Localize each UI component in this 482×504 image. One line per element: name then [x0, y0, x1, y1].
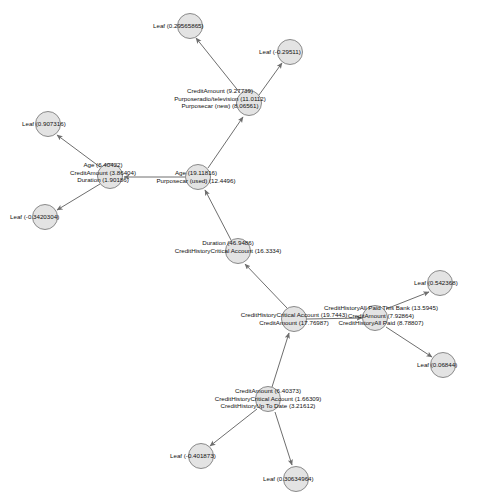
leaf-node[interactable]	[430, 352, 456, 378]
graph-edge	[57, 135, 100, 167]
graph-edge	[208, 117, 243, 168]
split-node[interactable]	[255, 386, 281, 412]
graph-edge	[259, 63, 282, 95]
split-node[interactable]	[236, 90, 262, 116]
graph-edge	[386, 327, 432, 357]
graph-edge	[210, 409, 257, 446]
graph-edge	[386, 292, 429, 309]
leaf-node[interactable]	[277, 39, 303, 65]
split-node[interactable]	[362, 305, 388, 331]
split-node[interactable]	[97, 163, 123, 189]
leaf-node[interactable]	[283, 466, 309, 492]
graph-edge	[205, 190, 231, 240]
leaf-node[interactable]	[32, 204, 58, 230]
leaf-node[interactable]	[35, 111, 61, 137]
graph-edge	[245, 264, 287, 308]
graph-edge	[275, 412, 292, 465]
leaf-node[interactable]	[177, 13, 203, 39]
leaf-node[interactable]	[188, 443, 214, 469]
graph-edge	[57, 184, 100, 210]
graph-edge	[307, 318, 362, 319]
split-node[interactable]	[225, 238, 251, 264]
split-node[interactable]	[281, 306, 307, 332]
split-node[interactable]	[185, 164, 211, 190]
leaf-node[interactable]	[427, 270, 453, 296]
decision-tree-graph-canvas: Leaf (0.29565865)Leaf (-0.29511)CreditAm…	[0, 0, 482, 504]
graph-edge	[272, 333, 289, 387]
graph-edge	[196, 38, 240, 93]
